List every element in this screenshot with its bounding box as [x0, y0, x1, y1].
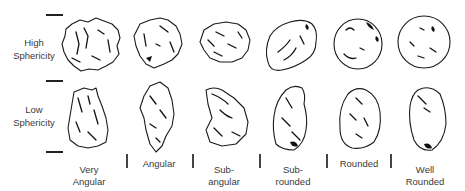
column-label-angular: Angular — [128, 158, 190, 170]
grain-sub-angular-low-sphericity — [206, 88, 248, 146]
grain-very-angular-high-sphericity — [62, 18, 120, 71]
grain-rounded-high-sphericity — [334, 19, 382, 69]
grain-very-angular-low-sphericity — [68, 88, 108, 148]
column-label-sub-angular: Sub- angular — [193, 164, 255, 188]
column-label-rounded: Rounded — [328, 158, 390, 170]
grain-rounded-low-sphericity — [340, 89, 381, 149]
grain-sub-angular-high-sphericity — [200, 22, 250, 62]
grain-well-rounded-low-sphericity — [410, 88, 447, 151]
column-separator-5 — [390, 154, 392, 168]
grain-sub-rounded-high-sphericity — [266, 20, 316, 70]
grain-angular-high-sphericity — [134, 18, 182, 68]
column-label-very-angular: Very Angular — [58, 164, 120, 188]
column-separator-3 — [259, 154, 261, 168]
column-label-well-rounded: Well Rounded — [394, 164, 456, 188]
grain-sub-rounded-low-sphericity — [273, 86, 306, 150]
grain-angular-low-sphericity — [140, 82, 174, 152]
column-label-sub-rounded: Sub- rounded — [262, 164, 324, 188]
grain-well-rounded-high-sphericity — [398, 16, 450, 68]
grain-drawings — [0, 0, 465, 191]
